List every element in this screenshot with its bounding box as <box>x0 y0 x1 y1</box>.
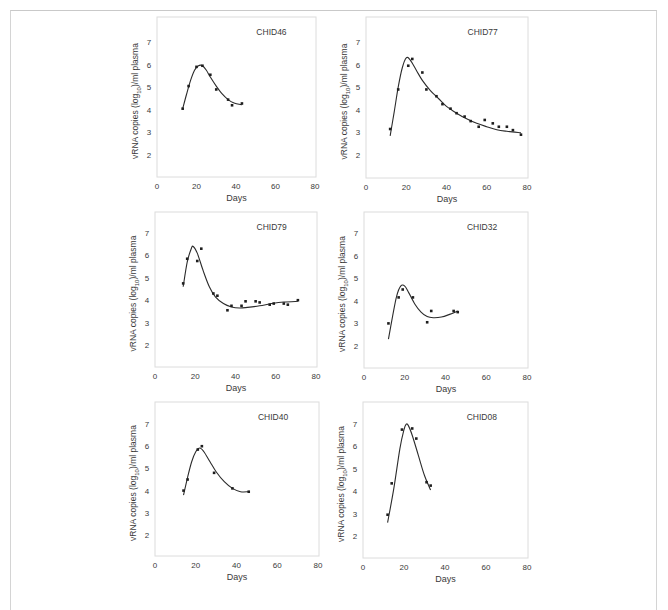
x-tick-label: 0 <box>153 372 158 381</box>
chart-panel-chid32: 234567020406080DaysvRNA copies (log10)/m… <box>337 212 532 394</box>
data-point <box>231 104 234 107</box>
y-tick-label: 5 <box>354 274 359 283</box>
y-tick-label: 3 <box>356 128 361 137</box>
data-point <box>387 322 390 325</box>
data-point <box>421 71 424 74</box>
y-tick-label: 4 <box>145 296 150 305</box>
x-tick-label: 80 <box>523 183 532 192</box>
x-tick-label: 20 <box>191 372 200 381</box>
plot-area <box>363 402 528 558</box>
y-tick-label: 3 <box>354 319 359 328</box>
fit-curve <box>184 448 249 495</box>
panel-title: CHID08 <box>467 412 498 422</box>
data-point <box>186 478 189 481</box>
data-point <box>241 102 244 105</box>
data-point <box>430 310 433 313</box>
panel-title: CHID79 <box>257 222 288 232</box>
y-tick-label: 4 <box>353 487 358 496</box>
x-axis-label: Days <box>435 574 456 584</box>
x-tick-label: 20 <box>192 182 201 191</box>
chart-panel-chid77: 234567020406080DaysvRNA copies (log10)/m… <box>339 17 532 204</box>
y-axis-label: vRNA copies (log10)/ml plasma <box>128 235 140 351</box>
data-point <box>272 302 275 305</box>
x-tick-label: 60 <box>482 563 491 572</box>
data-point <box>520 133 523 136</box>
data-point <box>182 489 185 492</box>
plot-area <box>155 402 319 556</box>
x-tick-label: 60 <box>271 372 280 381</box>
data-point <box>230 305 233 308</box>
chart-panel-chid40: 234567020406080DaysvRNA copies (log10)/m… <box>128 402 323 582</box>
data-point <box>435 95 438 98</box>
y-tick-label: 4 <box>147 106 152 115</box>
x-tick-label: 0 <box>362 373 367 382</box>
data-point <box>455 112 458 115</box>
y-tick-label: 4 <box>354 297 359 306</box>
y-tick-label: 3 <box>353 510 358 519</box>
x-tick-label: 80 <box>312 372 321 381</box>
data-point <box>425 481 428 484</box>
data-point <box>209 73 212 76</box>
data-point <box>247 490 250 493</box>
data-point <box>441 103 444 106</box>
fit-curve <box>388 285 457 339</box>
data-point <box>469 120 472 123</box>
data-point <box>449 107 452 110</box>
data-point <box>227 98 230 101</box>
x-axis-label: Days <box>226 383 247 393</box>
x-tick-label: 40 <box>442 183 451 192</box>
y-tick-label: 5 <box>145 464 150 473</box>
x-tick-label: 0 <box>361 563 366 572</box>
x-tick-label: 80 <box>311 182 320 191</box>
y-tick-label: 6 <box>353 442 358 451</box>
data-point <box>297 299 300 302</box>
data-point <box>452 310 455 313</box>
y-axis-label: vRNA copies (log10)/ml plasma <box>336 426 348 542</box>
data-point <box>401 288 404 291</box>
data-point <box>390 482 393 485</box>
y-axis-label: vRNA copies (log10)/ml plasma <box>128 425 140 541</box>
x-tick-label: 40 <box>231 372 240 381</box>
data-point <box>212 292 215 295</box>
x-axis-label: Days <box>227 572 248 582</box>
y-tick-label: 6 <box>147 61 152 70</box>
x-tick-label: 40 <box>441 373 450 382</box>
data-point <box>196 260 199 263</box>
chart-panel-chid46: 234567020406080DaysvRNA copies (log10)/m… <box>130 17 320 203</box>
y-axis-label: vRNA copies (log10)/ml plasma <box>130 43 142 159</box>
data-point <box>182 282 185 285</box>
x-tick-label: 40 <box>232 182 241 191</box>
y-tick-label: 7 <box>353 420 358 429</box>
x-axis-label: Days <box>436 384 457 394</box>
y-tick-label: 7 <box>145 420 150 429</box>
data-point <box>401 428 404 431</box>
data-point <box>412 296 415 299</box>
y-tick-label: 2 <box>354 342 359 351</box>
y-tick-label: 7 <box>354 229 359 238</box>
x-tick-label: 20 <box>402 183 411 192</box>
y-tick-label: 2 <box>147 151 152 160</box>
y-tick-label: 4 <box>145 487 150 496</box>
data-point <box>415 437 418 440</box>
x-tick-label: 0 <box>364 183 369 192</box>
data-point <box>195 66 198 69</box>
data-point <box>216 294 219 297</box>
fit-curve <box>183 246 298 308</box>
data-point <box>213 472 216 475</box>
panel-title: CHID32 <box>467 222 498 232</box>
y-tick-label: 6 <box>145 442 150 451</box>
y-tick-label: 2 <box>145 531 150 540</box>
data-point <box>201 445 204 448</box>
y-axis-label: vRNA copies (log10)/ml plasma <box>337 236 349 352</box>
data-point <box>226 309 229 312</box>
y-tick-label: 2 <box>353 532 358 541</box>
data-point <box>386 513 389 516</box>
x-tick-label: 20 <box>400 373 409 382</box>
data-point <box>389 128 392 131</box>
y-tick-label: 7 <box>145 229 150 238</box>
data-point <box>397 88 400 91</box>
fit-curve <box>390 57 521 135</box>
data-point <box>506 125 509 128</box>
x-tick-label: 0 <box>153 561 158 570</box>
x-tick-label: 0 <box>155 182 160 191</box>
